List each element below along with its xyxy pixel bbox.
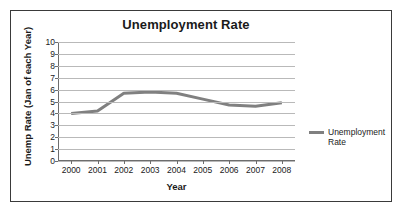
y-axis-tick-label: 0 xyxy=(15,157,55,165)
x-axis-tick xyxy=(177,161,178,164)
x-axis-tick-label: 2008 xyxy=(267,165,297,175)
gridline xyxy=(58,102,295,103)
x-axis-tick-labels: 200020012002200320042005200620072008 xyxy=(58,165,295,177)
x-axis-tick xyxy=(150,161,151,164)
y-axis-tick-label: 5 xyxy=(15,98,55,106)
gridline xyxy=(58,137,295,138)
gridline xyxy=(58,149,295,150)
chart-title: Unemployment Rate xyxy=(71,17,301,32)
y-axis-tick-label: 7 xyxy=(15,74,55,82)
y-axis-tick xyxy=(55,66,58,67)
gridline xyxy=(58,125,295,126)
y-axis-tick xyxy=(55,125,58,126)
y-axis-tick xyxy=(55,113,58,114)
chart-legend: Unemployment Rate xyxy=(309,127,395,147)
legend-swatch-icon xyxy=(309,131,324,134)
gridline xyxy=(58,78,295,79)
y-axis-tick xyxy=(55,137,58,138)
legend-item-label: Unemployment Rate xyxy=(328,127,390,147)
x-axis-tick xyxy=(256,161,257,164)
y-axis-tick xyxy=(55,161,58,162)
y-axis-tick-label: 4 xyxy=(15,109,55,117)
y-axis-tick-label: 9 xyxy=(15,50,55,58)
x-axis-title: Year xyxy=(58,181,295,192)
y-axis-tick-labels: 109876543210 xyxy=(14,42,55,161)
y-axis-tick xyxy=(55,78,58,79)
x-axis-tick xyxy=(98,161,99,164)
x-axis-tick xyxy=(203,161,204,164)
y-axis-tick xyxy=(55,90,58,91)
y-axis-tick-label: 6 xyxy=(15,86,55,94)
x-axis-tick xyxy=(124,161,125,164)
y-axis-tick xyxy=(55,54,58,55)
y-axis-tick-label: 10 xyxy=(15,38,55,46)
gridline xyxy=(58,66,295,67)
gridline xyxy=(58,54,295,55)
plot-area xyxy=(58,42,295,161)
y-axis-tick-label: 3 xyxy=(15,121,55,129)
chart-frame: Unemployment Rate Unemp Rate (Jan of eac… xyxy=(10,10,392,202)
legend-item-unemployment-rate: Unemployment Rate xyxy=(309,127,395,147)
x-axis-tick xyxy=(71,161,72,164)
y-axis-tick-label: 1 xyxy=(15,145,55,153)
gridline xyxy=(58,42,295,43)
x-axis-tick xyxy=(282,161,283,164)
gridline xyxy=(58,90,295,91)
series-line xyxy=(71,92,282,113)
y-axis-tick xyxy=(55,42,58,43)
gridline xyxy=(58,113,295,114)
y-axis-tick-label: 8 xyxy=(15,62,55,70)
y-axis-tick xyxy=(55,102,58,103)
x-axis-tick xyxy=(229,161,230,164)
y-axis-tick xyxy=(55,149,58,150)
y-axis-tick-label: 2 xyxy=(15,133,55,141)
